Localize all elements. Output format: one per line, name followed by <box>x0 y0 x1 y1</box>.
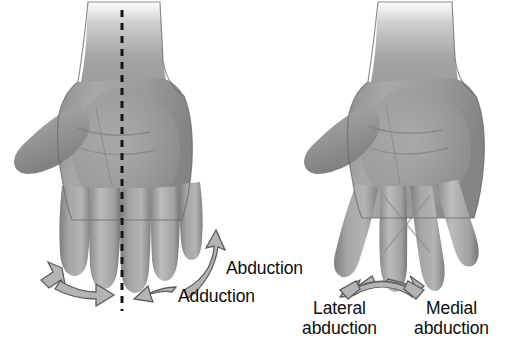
left-ring-finger <box>120 188 151 293</box>
left-index-finger <box>59 186 90 276</box>
left-middle-finger <box>89 188 120 289</box>
left-fifth-finger <box>180 182 203 260</box>
lateral-abduction-label: Lateral abduction <box>302 298 377 338</box>
right-middle-finger <box>379 186 407 292</box>
medial-abduction-line2: abduction <box>414 318 489 338</box>
left-little-finger <box>151 186 180 281</box>
medial-abduction-label: Medial abduction <box>414 298 489 338</box>
lateral-medial-abduction-arrow <box>340 276 424 299</box>
lateral-abduction-line1: Lateral <box>313 298 366 318</box>
abduction-label: Abduction <box>226 258 303 278</box>
lateral-abduction-line2: abduction <box>302 318 377 338</box>
right-hand-group <box>304 2 484 292</box>
hand-movement-figure: Abduction Adduction Lateral abduction Me… <box>0 0 508 357</box>
adduction-label: Adduction <box>178 286 255 306</box>
left-hand-group <box>14 2 203 293</box>
medial-abduction-line1: Medial <box>426 298 477 318</box>
